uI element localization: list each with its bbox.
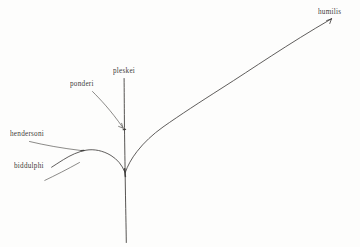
- branch-stem-pleskei: [124, 79, 126, 243]
- taxon-label-humilis: humilis: [318, 9, 341, 16]
- leader-biddulphi: [45, 163, 80, 181]
- branch-left-clade: [52, 150, 125, 172]
- figure-root: humilis pleskei ponderi hendersoni biddu…: [0, 0, 360, 247]
- taxon-label-ponderi: ponderi: [70, 81, 94, 88]
- leader-ponderi: [93, 92, 123, 128]
- phylogeny-diagram: [0, 0, 360, 247]
- main-junction-mark: [125, 169, 126, 177]
- leader-hendersoni: [30, 142, 81, 151]
- taxon-label-pleskei: pleskei: [113, 68, 135, 75]
- taxon-label-biddulphi: biddulphi: [14, 163, 44, 170]
- taxon-label-hendersoni: hendersoni: [10, 131, 44, 138]
- branch-humilis: [125, 19, 331, 173]
